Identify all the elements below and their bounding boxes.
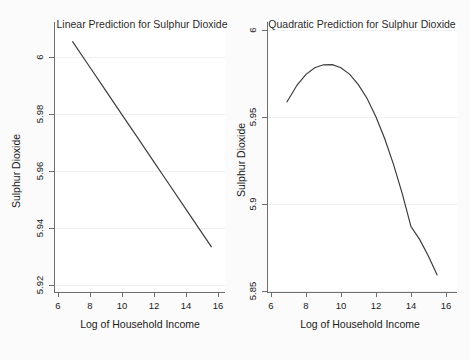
x-tick-label-12: 12 [371, 300, 382, 311]
y-tick-label-5.96: 5.96 [34, 162, 45, 181]
plot-title: Quadratic Prediction for Sulphur Dioxide [268, 18, 456, 30]
x-tick-label-14: 14 [181, 300, 192, 311]
x-tick-label-16: 16 [213, 300, 224, 311]
x-tick-label-8: 8 [303, 300, 308, 311]
y-tick-label-5.9: 5.9 [247, 197, 258, 210]
x-tick-label-10: 10 [336, 300, 347, 311]
x-tick-label-6: 6 [55, 300, 60, 311]
y-tick-label-5.92: 5.92 [34, 276, 45, 295]
plot-area-background [54, 22, 225, 292]
y-tick-label-5.94: 5.94 [34, 219, 45, 238]
y-tick-label-5.98: 5.98 [34, 105, 45, 124]
y-tick-label-6: 6 [34, 54, 45, 59]
figure-container: Linear Prediction for Sulphur Dioxide 6 … [0, 0, 470, 360]
panel-linear-prediction: Linear Prediction for Sulphur Dioxide 6 … [0, 0, 235, 360]
y-tick-label-5.95: 5.95 [247, 108, 258, 127]
x-axis-title: Log of Household Income [300, 318, 420, 330]
y-tick-label-5.85: 5.85 [247, 282, 258, 301]
x-tick-label-8: 8 [87, 300, 92, 311]
plot-title: Linear Prediction for Sulphur Dioxide [56, 18, 227, 30]
x-axis-title: Log of Household Income [80, 318, 200, 330]
quadratic-prediction-plot: Quadratic Prediction for Sulphur Dioxide… [235, 0, 470, 360]
linear-prediction-plot: Linear Prediction for Sulphur Dioxide 6 … [0, 0, 235, 360]
x-tick-label-12: 12 [149, 300, 160, 311]
y-axis-title: Sulphur Dioxide [235, 123, 247, 197]
x-tick-label-16: 16 [441, 300, 452, 311]
plot-area-background [267, 22, 457, 292]
x-tick-label-6: 6 [268, 300, 273, 311]
y-axis-title: Sulphur Dioxide [10, 134, 22, 208]
x-tick-label-10: 10 [117, 300, 128, 311]
x-tick-label-14: 14 [406, 300, 417, 311]
y-tick-label-6: 6 [247, 27, 258, 32]
panel-quadratic-prediction: Quadratic Prediction for Sulphur Dioxide… [235, 0, 470, 360]
